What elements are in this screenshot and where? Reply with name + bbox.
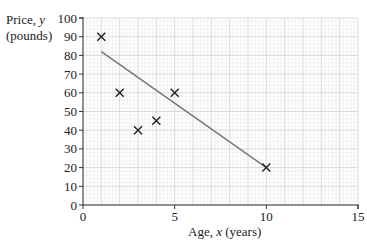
y-tick-label: 50 xyxy=(64,104,77,119)
grid xyxy=(83,18,358,205)
y-tick-label: 10 xyxy=(64,179,77,194)
scatter-chart: 0102030405060708090100051015 xyxy=(0,0,367,243)
fit-line xyxy=(101,52,266,168)
y-tick-label: 80 xyxy=(64,48,77,63)
x-tick-label: 5 xyxy=(171,209,178,224)
axes xyxy=(79,17,359,209)
x-tick-label: 10 xyxy=(260,209,273,224)
y-tick-label: 40 xyxy=(64,123,77,138)
y-tick-label: 0 xyxy=(71,198,78,213)
y-tick-label: 100 xyxy=(58,11,78,26)
y-tick-label: 70 xyxy=(64,67,77,82)
line-of-best-fit xyxy=(101,52,266,168)
y-tick-label: 20 xyxy=(64,160,77,175)
x-tick-label: 15 xyxy=(352,209,365,224)
y-tick-label: 90 xyxy=(64,29,77,44)
x-tick-label: 0 xyxy=(80,209,87,224)
y-tick-label: 60 xyxy=(64,85,77,100)
y-tick-label: 30 xyxy=(64,141,77,156)
